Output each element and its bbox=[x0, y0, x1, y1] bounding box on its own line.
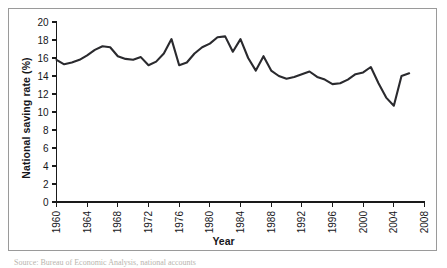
x-tick-label-1980: 1980 bbox=[204, 211, 215, 234]
y-tick-label-8: 8 bbox=[43, 125, 49, 136]
figure-root: 02468101214161820 1960196419681972197619… bbox=[0, 0, 447, 268]
saving-rate-series-line bbox=[57, 36, 410, 105]
y-tick-label-6: 6 bbox=[43, 143, 49, 154]
caption-sliver: Source: Bureau of Economic Analysis, nat… bbox=[14, 258, 314, 268]
x-tick-label-1976: 1976 bbox=[174, 211, 185, 234]
y-tick-label-10: 10 bbox=[37, 107, 49, 118]
x-tick-label-1988: 1988 bbox=[266, 211, 277, 234]
x-tick-label-1968: 1968 bbox=[112, 211, 123, 234]
y-tick-label-4: 4 bbox=[43, 161, 49, 172]
x-tick-label-2000: 2000 bbox=[358, 211, 369, 234]
y-tick-label-16: 16 bbox=[37, 53, 49, 64]
y-tick-label-18: 18 bbox=[37, 35, 49, 46]
x-axis-title: Year bbox=[0, 235, 447, 247]
x-tick-label-1996: 1996 bbox=[327, 211, 338, 234]
x-tick-label-1960: 1960 bbox=[51, 211, 62, 234]
y-tick-label-0: 0 bbox=[43, 197, 49, 208]
x-tick-label-1964: 1964 bbox=[82, 211, 93, 234]
y-tick-label-14: 14 bbox=[37, 71, 49, 82]
y-tick-label-20: 20 bbox=[37, 17, 49, 28]
y-axis-title: National saving rate (%) bbox=[20, 28, 32, 208]
x-tick-label-2008: 2008 bbox=[419, 211, 430, 234]
x-tick-label-1992: 1992 bbox=[296, 211, 307, 234]
x-tick-label-1984: 1984 bbox=[235, 211, 246, 234]
y-axis-tick-labels: 02468101214161820 bbox=[37, 17, 49, 208]
x-tick-label-2004: 2004 bbox=[388, 211, 399, 234]
x-axis-tick-marks bbox=[57, 202, 425, 207]
x-tick-label-1972: 1972 bbox=[143, 211, 154, 234]
y-tick-label-12: 12 bbox=[37, 89, 49, 100]
line-chart-canvas: 02468101214161820 1960196419681972197619… bbox=[0, 0, 447, 268]
x-axis-tick-labels: 1960196419681972197619801984198819921996… bbox=[51, 211, 430, 234]
y-tick-label-2: 2 bbox=[43, 179, 49, 190]
y-axis-tick-marks bbox=[52, 22, 57, 202]
